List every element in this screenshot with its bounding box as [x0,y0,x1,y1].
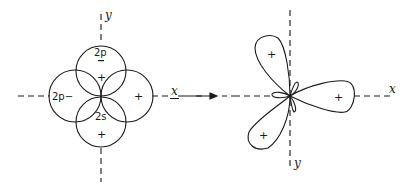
right-x-label: x [389,82,396,96]
sign-lobe-lower-left: + [259,129,268,142]
sign-lobe-upper-left: + [267,48,276,61]
sign-bottom: + [97,128,106,141]
left-y-label: y [104,8,112,22]
sign-lobe-right: + [334,91,343,104]
lobe-lower-left [248,96,290,149]
orbital-2p-right [101,70,153,122]
label-2s: 2s [95,111,107,122]
label-2p-top: 2p [94,47,107,58]
right-y-label: y [293,156,301,170]
lobe-right [290,81,354,112]
left-x-label: x [171,84,178,98]
minus-sign-top [98,60,104,61]
label-2p-left: 2p− [52,91,73,102]
hybridization-figure: y x 2p + 2p− + 2s + y x + + + [0,0,414,189]
sign-top-inner: + [97,71,106,84]
lobe-upper-left [255,36,290,96]
right-arrow-icon [178,93,217,99]
sign-right: + [134,90,143,103]
